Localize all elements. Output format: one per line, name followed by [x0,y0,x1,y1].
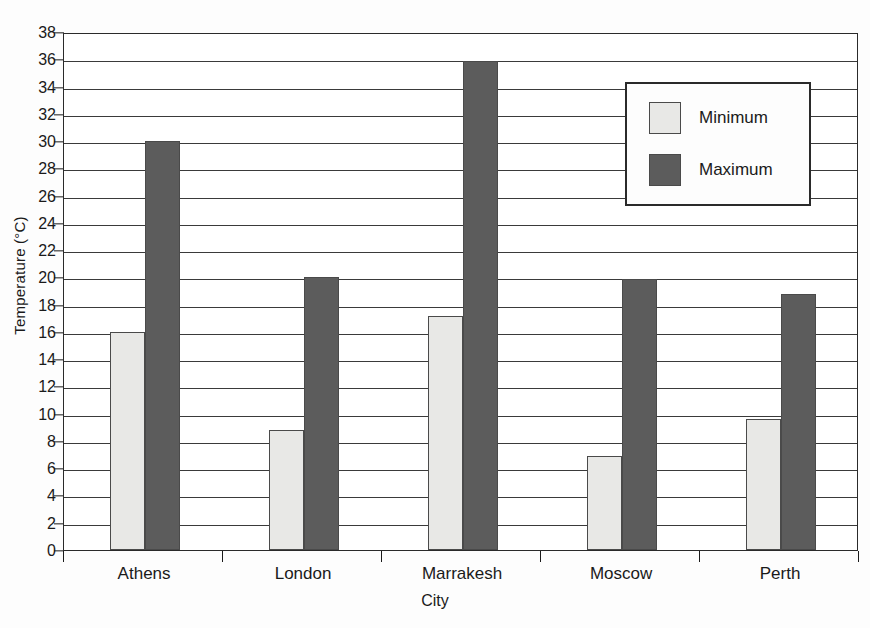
x-tick-mark [63,551,64,562]
bar [587,456,622,550]
y-axis-title-text: Temperature (°C) [11,216,28,334]
legend-swatch-maximum [649,154,681,186]
bar [110,332,145,550]
y-axis-tick-labels: 02468101214161820222426283032343638 [30,0,56,628]
x-tick-label: Marrakesh [422,564,502,584]
x-tick-label: Moscow [590,564,652,584]
x-tick-mark [222,551,223,562]
legend-label-minimum: Minimum [699,108,768,128]
x-tick-label: Perth [760,564,801,584]
bar-chart: Temperature (°C) 02468101214161820222426… [0,0,870,628]
bar [304,277,339,550]
bar [145,141,180,550]
x-axis-title: City [0,592,870,610]
bar [746,419,781,550]
legend-entry-maximum: Maximum [649,154,809,186]
x-axis-tick-labels: AthensLondonMarrakeshMoscowPerth [63,564,858,588]
legend: Minimum Maximum [625,82,811,206]
legend-swatch-minimum [649,102,681,134]
bar [622,279,657,550]
x-tick-mark [699,551,700,562]
bar [463,61,498,550]
legend-entry-minimum: Minimum [649,102,809,134]
legend-label-maximum: Maximum [699,160,773,180]
bar [428,316,463,550]
x-tick-label: Athens [118,564,171,584]
bar [269,430,304,550]
x-tick-mark [381,551,382,562]
x-tick-label: London [275,564,332,584]
bar [781,294,816,550]
x-tick-mark [858,551,859,562]
x-tick-mark [540,551,541,562]
